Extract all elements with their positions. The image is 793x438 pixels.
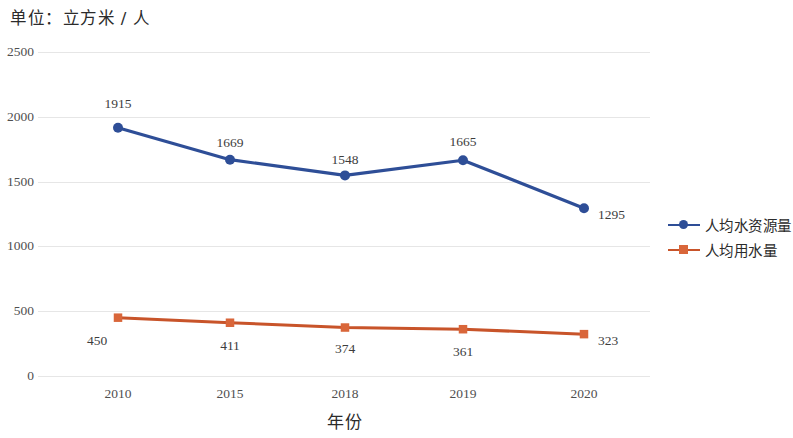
x-tick-2018: 2018 [332, 386, 359, 402]
chart-figure: 单位：立方米 / 人 0 500 1000 1500 2000 2500 191… [0, 0, 793, 438]
data-point-blue-2010 [113, 123, 123, 133]
data-point-orange-2018 [341, 323, 350, 332]
x-tick-2019: 2019 [450, 386, 477, 402]
data-label-blue-2018: 1548 [332, 152, 359, 168]
data-label-orange-2018: 374 [335, 341, 355, 357]
data-label-blue-2020: 1295 [598, 207, 625, 223]
x-tick-2020: 2020 [571, 386, 598, 402]
data-label-orange-2015: 411 [220, 338, 240, 354]
data-point-orange-2019 [459, 325, 468, 334]
data-label-blue-2019: 1665 [450, 134, 477, 150]
data-label-blue-2015: 1669 [217, 135, 244, 151]
data-point-blue-2018 [340, 170, 350, 180]
legend-label-0: 人均水资源量 [705, 214, 791, 235]
legend-item-0[interactable]: 人均水资源量 [668, 212, 791, 237]
data-point-orange-2020 [580, 330, 589, 339]
data-point-blue-2019 [458, 155, 468, 165]
x-tick-2010: 2010 [105, 386, 132, 402]
legend-item-1[interactable]: 人均用水量 [668, 237, 791, 262]
data-point-blue-2020 [579, 203, 589, 213]
legend-label-1: 人均用水量 [705, 239, 777, 260]
chart-legend: 人均水资源量 人均用水量 [668, 212, 791, 262]
data-point-orange-2015 [226, 318, 235, 327]
data-label-blue-2010: 1915 [105, 96, 132, 112]
data-label-orange-2019: 361 [453, 344, 473, 360]
legend-marker-circle-icon [668, 218, 700, 232]
x-axis-title: 年份 [0, 408, 690, 433]
data-point-blue-2015 [225, 155, 235, 165]
legend-marker-square-icon [668, 243, 700, 257]
data-label-orange-2010: 450 [87, 333, 107, 349]
series-人均用水量 [114, 313, 589, 338]
data-point-orange-2010 [114, 313, 123, 322]
data-label-orange-2020: 323 [598, 333, 618, 349]
x-tick-2015: 2015 [217, 386, 244, 402]
